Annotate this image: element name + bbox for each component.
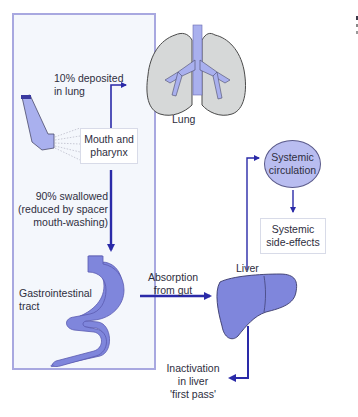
label-inactivation: Inactivation in liver 'first pass' xyxy=(158,362,228,401)
mouth-line2: pharynx xyxy=(90,146,127,159)
circulation-line1: Systemic xyxy=(271,151,314,164)
label-gi-tract: Gastrointestinal tract xyxy=(19,287,92,313)
absorption-line2: from gut xyxy=(138,284,208,297)
node-systemic-side-effects: Systemic side-effects xyxy=(260,218,326,254)
gi-line2: tract xyxy=(19,300,92,313)
node-systemic-circulation: Systemic circulation xyxy=(264,140,321,188)
inactivation-line3: 'first pass' xyxy=(158,388,228,401)
lung-icon xyxy=(147,25,246,115)
swallowed-line1: 90% swallowed xyxy=(14,190,108,203)
label-swallowed: 90% swallowed (reduced by spacer mouth-w… xyxy=(14,190,108,229)
label-liver: Liver xyxy=(236,262,259,275)
swallowed-line3: mouth-washing) xyxy=(14,216,108,229)
side-effects-line1: Systemic xyxy=(272,223,315,236)
deposited-line2: in lung xyxy=(54,85,123,98)
circulation-line2: circulation xyxy=(269,164,316,177)
gi-line1: Gastrointestinal xyxy=(19,287,92,300)
label-absorption: Absorption from gut xyxy=(138,271,208,297)
node-mouth-pharynx: Mouth and pharynx xyxy=(80,128,138,164)
label-lung: Lung xyxy=(172,113,195,126)
swallowed-line2: (reduced by spacer xyxy=(14,203,108,216)
inactivation-line1: Inactivation xyxy=(158,362,228,375)
absorption-line1: Absorption xyxy=(138,271,208,284)
deposited-line1: 10% deposited xyxy=(54,72,123,85)
inactivation-line2: in liver xyxy=(158,375,228,388)
label-deposited: 10% deposited in lung xyxy=(54,72,123,98)
arrow-to-circulation xyxy=(247,158,259,270)
mouth-line1: Mouth and xyxy=(84,133,134,146)
side-effects-line2: side-effects xyxy=(266,236,320,249)
liver-icon xyxy=(217,274,297,339)
